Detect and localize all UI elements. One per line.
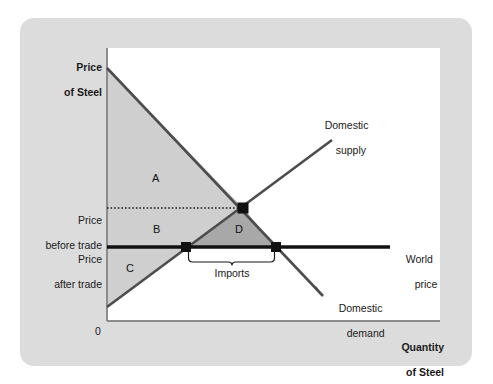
price-after-trade-label: Price after trade — [14, 240, 102, 303]
origin-label: 0 — [95, 325, 101, 338]
world-price-line1: World — [406, 253, 433, 265]
y-axis-title-line1: Price — [76, 61, 102, 73]
price-before-trade-line1: Price — [78, 214, 102, 226]
price-after-trade-line1: Price — [78, 253, 102, 265]
y-axis-title-line2: of Steel — [64, 86, 102, 98]
supply-at-world-price-marker — [181, 242, 191, 252]
region-label-c: C — [126, 263, 134, 274]
domestic-supply-label: Domestic supply — [313, 106, 368, 169]
trade-diagram-figure: Price of Steel Quantity of Steel 0 Price… — [0, 0, 493, 384]
region-label-a: A — [152, 173, 159, 184]
imports-brace — [189, 252, 275, 266]
region-label-d: D — [235, 224, 243, 235]
imports-label: Imports — [196, 267, 268, 280]
domestic-demand-line2: demand — [347, 327, 385, 339]
x-axis-title-line2: of Steel — [406, 366, 444, 378]
demand-at-world-price-marker — [271, 242, 281, 252]
equilibrium-point-marker — [238, 203, 249, 214]
domestic-supply-line1: Domestic — [325, 119, 369, 131]
x-axis-title-line1: Quantity — [401, 341, 444, 353]
region-label-b: B — [153, 224, 160, 235]
domestic-demand-label: Domestic demand — [327, 289, 385, 352]
price-after-trade-line2: after trade — [54, 278, 102, 290]
y-axis-title: Price of Steel — [22, 48, 102, 111]
domestic-demand-arrowhead — [315, 287, 324, 297]
domestic-demand-line1: Domestic — [339, 302, 383, 314]
domestic-supply-line2: supply — [336, 144, 366, 156]
world-price-line2: price — [415, 278, 438, 290]
world-price-label: World price — [394, 240, 437, 303]
